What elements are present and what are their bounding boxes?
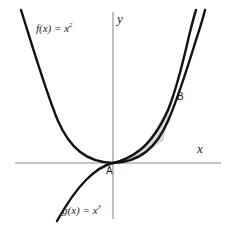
point-a-marker — [112, 162, 113, 163]
y-axis-label: y — [117, 12, 123, 25]
curve-g-cubic — [57, 10, 196, 221]
curve-label-g: g(x) = x3 — [62, 204, 101, 216]
curve-label-f-exponent: 2 — [69, 21, 72, 28]
point-a-label: A — [106, 166, 113, 176]
curve-label-g-exponent: 3 — [98, 203, 101, 210]
x-axis-label: x — [197, 142, 203, 155]
graph-canvas — [0, 0, 228, 231]
point-b-marker — [169, 103, 170, 104]
point-b-label: B — [177, 92, 184, 102]
curve-label-f: f(x) = x2 — [36, 22, 72, 34]
function-graph-figure: f(x) = x2 g(x) = x3 x y A B — [0, 0, 228, 231]
